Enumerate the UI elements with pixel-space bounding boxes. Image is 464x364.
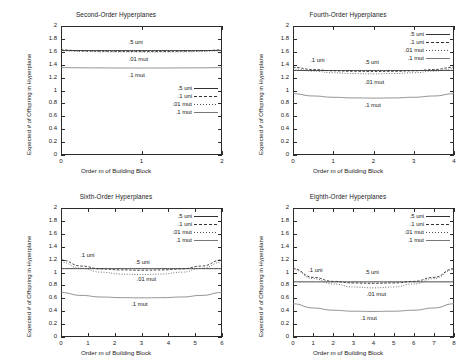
legend: .5 uni.1 uni.01 mut.1 mut [132,84,218,116]
legend-label: .5 uni [178,84,192,92]
legend-label: .5 uni [410,212,424,220]
legend-label: .1 mut [408,236,424,244]
legend-swatch-dashed [426,42,450,43]
legend-row: .1 mut [132,236,218,244]
legend-label: .1 uni [178,92,192,100]
curve-annotation: .5 uni [365,269,379,275]
legend-swatch-thin [194,240,218,241]
legend: .5 uni.1 uni.01 mut.1 mut [364,30,450,62]
curve-annotation: .01 mut [129,56,149,62]
chart-panel-2: Fourth-Order HyperplanesExpected # of Of… [232,0,464,182]
series-line-thin [293,304,454,312]
legend-row: .1 uni [364,38,450,46]
chart-panel-1: Second-Order HyperplanesExpected # of Of… [0,0,232,182]
curve-annotation: .5 uni [129,39,143,45]
series-layer [232,0,464,182]
legend-swatch-dotted [194,104,218,105]
legend-label: .1 uni [178,220,192,228]
legend-label: .5 uni [410,30,424,38]
curve-annotation: .1 mut [361,315,377,321]
legend-label: .1 uni [410,220,424,228]
legend-label: .1 mut [176,236,192,244]
legend-row: .01 mut [132,100,218,108]
curve-annotation: .01 mut [137,276,157,282]
legend-label: .01 mut [404,46,424,54]
curve-annotation: .1 mut [131,301,147,307]
legend: .5 uni.1 uni.01 mut.1 mut [364,212,450,244]
legend-label: .1 uni [410,38,424,46]
series-line-thin [293,94,454,98]
legend-swatch-dashed [194,224,218,225]
legend-row: .1 uni [132,220,218,228]
curve-annotation: .01 mut [365,79,385,85]
curve-annotation: .1 mut [129,72,145,78]
legend-row: .01 mut [132,228,218,236]
legend-row: .5 uni [132,212,218,220]
legend-swatch-solid [194,216,218,217]
legend-swatch-dashed [194,96,218,97]
curve-annotation: .01 mut [367,291,387,297]
legend-label: .1 mut [176,108,192,116]
legend-swatch-solid [426,34,450,35]
series-line-thin [61,293,222,298]
curve-annotation: .1 uni [308,267,322,273]
legend-row: .5 uni [364,212,450,220]
chart-panel-4: Eighth-Order HyperplanesExpected # of Of… [232,182,464,364]
curve-annotation: .5 uni [135,259,149,265]
series-layer [0,182,232,364]
legend: .5 uni.1 uni.01 mut.1 mut [132,212,218,244]
curve-annotation: .1 uni [310,57,324,63]
legend-row: .1 mut [364,236,450,244]
legend-swatch-dashed [426,224,450,225]
legend-row: .01 mut [364,46,450,54]
chart-panel-3: Sixth-Order HyperplanesExpected # of Off… [0,182,232,364]
legend-swatch-thin [194,112,218,113]
curve-annotation: .1 mut [365,102,381,108]
series-layer [232,182,464,364]
legend-label: .01 mut [172,100,192,108]
legend-row: .01 mut [364,228,450,236]
legend-swatch-solid [194,88,218,89]
legend-label: .1 mut [408,54,424,62]
legend-label: .5 uni [178,212,192,220]
legend-swatch-dotted [426,50,450,51]
legend-swatch-dotted [194,232,218,233]
figure-canvas: Second-Order HyperplanesExpected # of Of… [0,0,464,364]
legend-row: .1 mut [364,54,450,62]
legend-row: .1 uni [132,92,218,100]
legend-label: .01 mut [404,228,424,236]
legend-swatch-solid [426,216,450,217]
legend-label: .01 mut [172,228,192,236]
legend-swatch-thin [426,240,450,241]
legend-row: .1 mut [132,108,218,116]
legend-row: .5 uni [132,84,218,92]
legend-row: .5 uni [364,30,450,38]
legend-row: .1 uni [364,220,450,228]
legend-swatch-dotted [426,232,450,233]
legend-swatch-thin [426,58,450,59]
curve-annotation: .1 uni [80,252,94,258]
